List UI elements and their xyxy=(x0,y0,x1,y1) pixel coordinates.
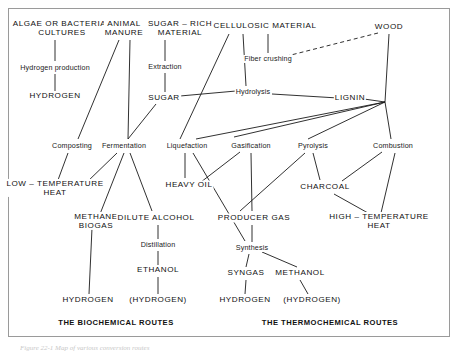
node-producergas: PRODUCER GAS xyxy=(217,213,291,222)
node-thermo_title: THE THERMOCHEMICAL ROUTES xyxy=(261,319,399,328)
node-gasification: Gasification xyxy=(230,142,271,150)
node-dilute: DILUTE ALCOHOL xyxy=(117,213,196,222)
node-synthesis: Synthesis xyxy=(235,244,270,252)
node-heavyoil: HEAVY OIL xyxy=(165,180,214,189)
node-combustion: Combustion xyxy=(372,142,414,150)
node-hydrolysis: Hydrolysis xyxy=(235,88,272,96)
node-syngas: SYNGAS xyxy=(226,268,265,277)
node-hydrogen_br2: (HYDROGEN) xyxy=(282,295,342,304)
node-composting: Composting xyxy=(51,142,93,150)
node-fiber: Fiber crushing xyxy=(243,55,293,63)
node-wood: WOOD xyxy=(374,22,404,31)
node-sugarrich: SUGAR – RICHMATERIAL xyxy=(147,19,213,37)
figure-caption: Figure 22-1 Map of various conversion ro… xyxy=(20,344,440,353)
node-hydrogen_bl: HYDROGEN xyxy=(61,295,114,304)
node-biochem_title: THE BIOCHEMICAL ROUTES xyxy=(57,319,175,328)
node-methanol: METHANOL xyxy=(274,268,325,277)
node-hydprod: Hydrogen production xyxy=(19,64,91,72)
node-extraction: Extraction xyxy=(147,63,182,71)
node-hydrogen_br: HYDROGEN xyxy=(218,295,271,304)
node-lignin: LIGNIN xyxy=(334,93,366,102)
node-sugar: SUGAR xyxy=(147,93,181,102)
node-cellulosic: CELLULOSIC MATERIAL xyxy=(213,21,318,30)
node-hydrogen_bl2: (HYDROGEN) xyxy=(128,295,188,304)
node-pyrolysis: Pyrolysis xyxy=(297,142,329,150)
node-fermentation: Fermentation xyxy=(101,142,147,150)
figure-frame xyxy=(8,8,450,337)
node-hydrogen_top: HYDROGEN xyxy=(28,91,81,100)
node-methane: METHANEBIOGAS xyxy=(73,212,118,230)
node-liquefaction: Liquefaction xyxy=(166,142,209,150)
node-hightemp: HIGH – TEMPERATUREHEAT xyxy=(328,212,430,230)
node-animal: ANIMALMANURE xyxy=(104,19,144,37)
node-ethanol: ETHANOL xyxy=(136,265,180,274)
node-lowtemp: LOW – TEMPERATUREHEAT xyxy=(5,179,104,197)
node-distillation: Distillation xyxy=(140,241,177,249)
node-charcoal: CHARCOAL xyxy=(299,182,350,191)
node-algae: ALGAE OR BACTERIALCULTURES xyxy=(12,19,113,37)
